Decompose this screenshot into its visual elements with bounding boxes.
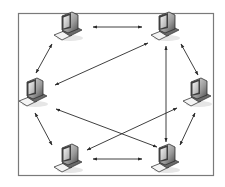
- pc-bottom-right-computer-icon: [151, 144, 180, 173]
- pc-mid-left-computer-icon: [19, 78, 48, 107]
- bidirectional-arrow-pc-top-left-to-pc-mid-left: [36, 44, 52, 73]
- bidirectional-arrow-pc-mid-right-to-pc-bottom-right: [180, 113, 195, 145]
- computer-nodes: [19, 12, 212, 173]
- pc-mid-right-computer-icon: [183, 78, 212, 107]
- connection-arrows: [35, 27, 198, 159]
- pc-top-right-computer-icon: [151, 12, 180, 41]
- bidirectional-arrow-pc-mid-right-to-pc-bottom-left: [87, 108, 177, 150]
- bidirectional-arrow-pc-top-right-to-pc-mid-right: [181, 44, 198, 75]
- network-diagram: [0, 0, 225, 187]
- bidirectional-arrow-pc-mid-left-to-pc-bottom-left: [35, 113, 52, 145]
- bidirectional-arrow-pc-top-right-to-pc-mid-left: [55, 43, 148, 85]
- pc-top-left-computer-icon: [54, 12, 83, 41]
- diagram-frame: [19, 14, 214, 176]
- pc-bottom-left-computer-icon: [54, 144, 83, 173]
